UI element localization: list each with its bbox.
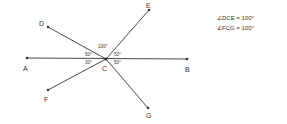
point-C bbox=[105, 58, 108, 61]
ray-CE bbox=[106, 10, 149, 59]
label-E: E bbox=[146, 2, 151, 9]
angle-ACD-label: 50° bbox=[85, 52, 92, 57]
ray-CF bbox=[48, 59, 106, 90]
point-D bbox=[47, 26, 50, 29]
equation-DCE: ∠DCE = 100° bbox=[217, 14, 254, 21]
label-B: B bbox=[185, 66, 190, 73]
angle-ACF-label: 30° bbox=[85, 60, 92, 65]
point-E bbox=[148, 9, 151, 12]
label-G: G bbox=[146, 112, 151, 119]
label-C: C bbox=[102, 65, 107, 72]
equation-FCG: ∠FCG = 100° bbox=[217, 24, 254, 31]
label-A: A bbox=[23, 65, 28, 72]
angle-BCG-label: 50° bbox=[114, 60, 121, 65]
label-D: D bbox=[39, 20, 44, 27]
angle-DCE-label: 100° bbox=[98, 44, 108, 49]
label-F: F bbox=[44, 96, 48, 103]
point-B bbox=[186, 58, 189, 61]
ray-CG bbox=[106, 59, 148, 108]
point-G bbox=[147, 107, 150, 110]
ray-CD bbox=[48, 27, 106, 59]
point-F bbox=[47, 89, 50, 92]
point-A bbox=[26, 57, 29, 60]
angle-ECB-label: 50° bbox=[114, 52, 121, 57]
